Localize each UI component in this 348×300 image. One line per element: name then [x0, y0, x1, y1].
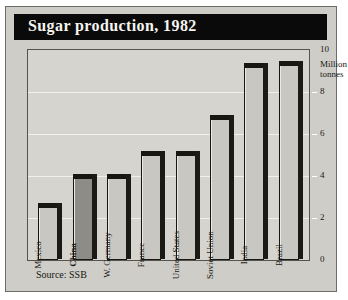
axis-tick — [312, 176, 317, 177]
bar-top-cap — [244, 63, 264, 68]
bar-label: China — [63, 243, 83, 267]
chart-figure: Sugar production, 1982 MexicoChinaW. Ger… — [5, 6, 337, 292]
bar-top-cap — [107, 174, 127, 179]
bar-united-states[interactable]: United States — [176, 155, 196, 260]
axis-unit-label: Million tonnes — [320, 59, 346, 79]
axis-tick-label: 10 — [320, 44, 329, 54]
axis-tick-label: 6 — [320, 128, 325, 138]
bar-series: MexicoChinaW. GermanyFranceUnited States… — [28, 50, 309, 260]
axis-tick-label: 2 — [320, 212, 325, 222]
bar-slot: United States — [172, 50, 199, 260]
bar-india[interactable]: India — [244, 67, 264, 260]
title-banner: Sugar production, 1982 — [14, 14, 327, 40]
bar-side-face — [57, 203, 62, 259]
bar-label: Mexico — [28, 241, 48, 269]
bar-top-cap — [176, 151, 196, 156]
axis-tick — [312, 134, 317, 135]
bar-mexico[interactable]: Mexico — [38, 207, 58, 260]
bar-side-face — [195, 151, 200, 259]
bar-top-cap — [279, 61, 299, 66]
bar-side-face — [298, 61, 303, 259]
bar-slot: W. Germany — [103, 50, 130, 260]
bar-top-cap — [210, 115, 230, 120]
bar-top-cap — [141, 151, 161, 156]
bar-side-face — [160, 151, 165, 259]
y-axis: Million tonnes 1086420 — [312, 49, 346, 261]
page-title: Sugar production, 1982 — [28, 17, 197, 35]
bar-slot: Soviet Union — [207, 50, 234, 260]
bar-label: Soviet Union — [200, 231, 220, 279]
bar-soviet-union[interactable]: Soviet Union — [210, 119, 230, 260]
bar-label: India — [234, 246, 254, 265]
bar-label: W. Germany — [97, 232, 117, 278]
bar-side-face — [229, 115, 234, 259]
bar-slot: Mexico — [35, 50, 62, 260]
bar-side-face — [92, 174, 97, 259]
axis-tick — [312, 218, 317, 219]
bar-label: France — [131, 243, 151, 268]
bar-china[interactable]: China — [73, 178, 93, 260]
bar-label: Brazil — [269, 244, 289, 266]
bar-w-germany[interactable]: W. Germany — [107, 178, 127, 260]
plot-area: MexicoChinaW. GermanyFranceUnited States… — [27, 49, 310, 261]
bar-france[interactable]: France — [141, 155, 161, 260]
axis-unit-line1: Million — [320, 59, 346, 69]
source-note: Source: SSB — [36, 269, 87, 280]
bar-side-face — [263, 63, 268, 259]
bar-slot: Brazil — [275, 50, 302, 260]
axis-tick-label: 8 — [320, 86, 325, 96]
bar-top-cap — [73, 174, 93, 179]
bar-top-cap — [38, 203, 58, 208]
bar-slot: France — [138, 50, 165, 260]
bar-brazil[interactable]: Brazil — [279, 65, 299, 260]
axis-tick-label: 0 — [320, 254, 325, 264]
axis-unit-line2: tonnes — [320, 69, 346, 79]
axis-tick-label: 4 — [320, 170, 325, 180]
bar-label: United States — [166, 231, 186, 279]
bar-slot: China — [69, 50, 96, 260]
axis-tick — [312, 92, 317, 93]
bar-slot: India — [241, 50, 268, 260]
